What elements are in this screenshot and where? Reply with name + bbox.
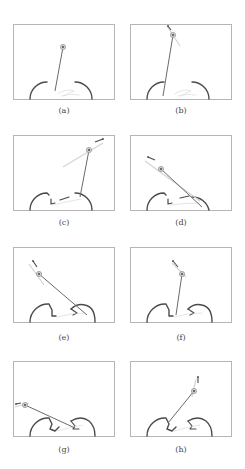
figure-panel: [130, 135, 232, 211]
panel-caption: (h): [130, 445, 232, 454]
panel-caption: (f): [130, 333, 232, 342]
panel-caption: (c): [13, 218, 115, 227]
panel-caption: (b): [130, 106, 232, 115]
pendulum-diagram: [130, 135, 232, 211]
pendulum-diagram: [130, 24, 232, 100]
figure-panel: [130, 24, 232, 100]
panel-caption: (a): [13, 106, 115, 115]
pendulum-diagram: [13, 247, 115, 323]
pendulum-diagram: [130, 247, 232, 323]
figure-panel: [130, 247, 232, 323]
pendulum-diagram: [130, 361, 232, 437]
figure-panel: [13, 361, 115, 437]
panel-caption: (d): [130, 218, 232, 227]
pendulum-diagram: [13, 361, 115, 437]
panel-caption: (g): [13, 445, 115, 454]
figure-panel: [130, 361, 232, 437]
pendulum-diagram: [13, 24, 115, 100]
panel-caption: (e): [13, 333, 115, 342]
figure-panel: [13, 247, 115, 323]
figure-panel: [13, 135, 115, 211]
pendulum-diagram: [13, 135, 115, 211]
figure-panel: [13, 24, 115, 100]
